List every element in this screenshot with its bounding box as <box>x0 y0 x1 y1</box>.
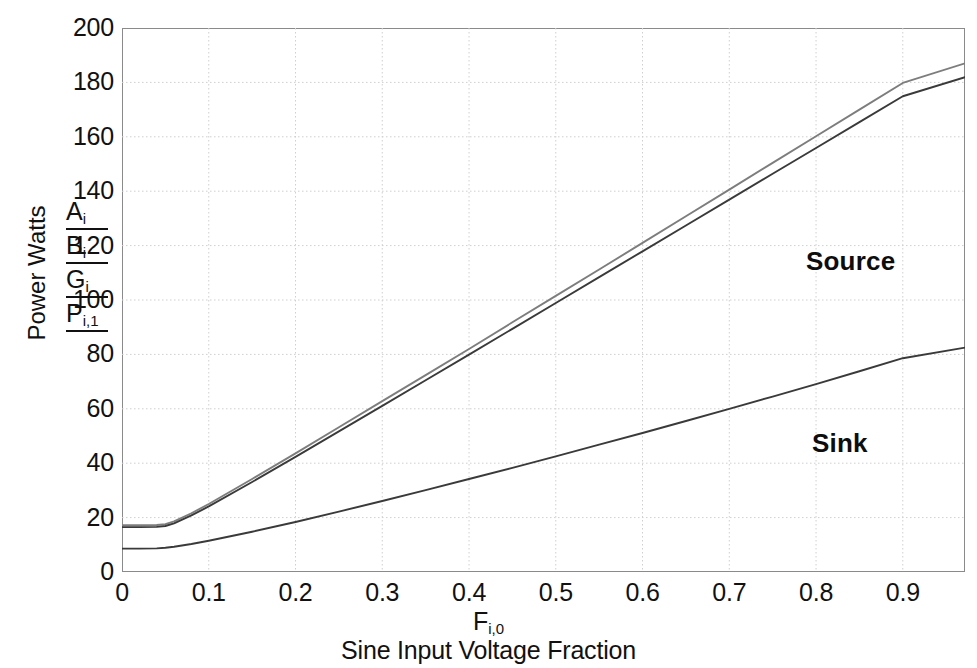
annotation-sink: Sink <box>812 428 868 459</box>
x-axis-caption: Sine Input Voltage Fraction <box>0 635 977 665</box>
x-tick-label: 0.9 <box>863 578 943 606</box>
data-series-lines <box>122 63 965 548</box>
y-tick-label: 160 <box>52 124 114 149</box>
grid-lines <box>122 28 965 572</box>
y-axis-symbol: Gi <box>66 264 108 298</box>
y-axis-title: Power Watts AiBiGiPi,1 <box>4 196 122 396</box>
y-tick-label: 60 <box>52 396 114 421</box>
y-tick-label: 40 <box>52 450 114 475</box>
x-axis-title: Fi,0 Sine Input Voltage Fraction <box>0 608 977 665</box>
plot-canvas <box>122 28 965 572</box>
y-tick-label: 200 <box>52 15 114 40</box>
x-tick-label: 0.7 <box>689 578 769 606</box>
y-tick-label: 180 <box>52 69 114 94</box>
y-axis-symbol: Ai <box>66 196 108 230</box>
x-tick-label: 0.5 <box>516 578 596 606</box>
x-axis-tick-labels: 00.10.20.30.40.50.60.70.80.9 <box>0 578 977 612</box>
y-axis-symbol: Bi <box>66 230 108 264</box>
y-axis-title-text: Power Watts <box>24 178 50 368</box>
x-tick-label: 0.4 <box>429 578 509 606</box>
x-tick-label: 0.8 <box>776 578 856 606</box>
y-tick-label: 20 <box>52 505 114 530</box>
annotation-source: Source <box>806 246 895 277</box>
y-axis-symbol-stack: AiBiGiPi,1 <box>66 196 118 332</box>
x-tick-label: 0 <box>82 578 162 606</box>
y-axis-symbol: Pi,1 <box>66 298 108 332</box>
chart-figure: 020406080100120140160180200 Power Watts … <box>0 0 977 668</box>
x-axis-symbol: Fi,0 <box>0 608 977 635</box>
x-tick-label: 0.1 <box>169 578 249 606</box>
x-tick-label: 0.2 <box>256 578 336 606</box>
x-tick-label: 0.6 <box>603 578 683 606</box>
x-tick-label: 0.3 <box>342 578 422 606</box>
